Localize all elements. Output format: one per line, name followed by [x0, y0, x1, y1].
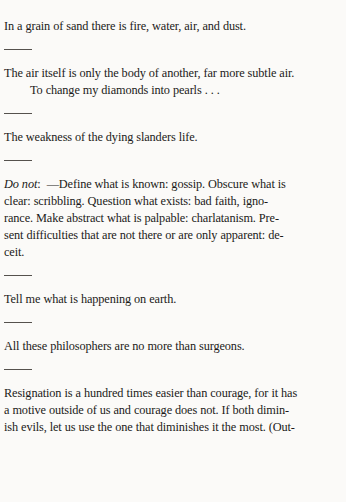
- aphorism-text: The weakness of the dying slanders life.: [4, 129, 336, 146]
- lead-rest-text: : —Define what is known: gossip. Obscure…: [37, 177, 286, 191]
- aphorism-entry: Resignation is a hundred times easier th…: [4, 385, 336, 436]
- spacer: [4, 35, 336, 49]
- aphorism-text: Resignation is a hundred times easier th…: [4, 385, 336, 436]
- text-line: clear: scribbling. Question what exists:…: [4, 193, 336, 210]
- text-line: Tell me what is happening on earth.: [4, 291, 336, 308]
- text-line-with-lead: Do not: —Define what is known: gossip. O…: [4, 176, 336, 193]
- text-line: ceit.: [4, 244, 336, 261]
- text-line: sent difficulties that are not there or …: [4, 227, 336, 244]
- aphorism-text: Tell me what is happening on earth.: [4, 291, 336, 308]
- aphorism-entry: All these philosophers are no more than …: [4, 338, 336, 355]
- book-page: In a grain of sand there is fire, water,…: [0, 0, 346, 502]
- aphorism-text: Do not: —Define what is known: gossip. O…: [4, 176, 336, 261]
- text-line: Resignation is a hundred times easier th…: [4, 385, 336, 402]
- text-line: The weakness of the dying slanders life.: [4, 129, 336, 146]
- text-line: The air itself is only the body of anoth…: [4, 65, 336, 82]
- spacer: [4, 355, 336, 369]
- spacer: [4, 308, 336, 322]
- spacer: [4, 370, 336, 385]
- spacer: [4, 161, 336, 176]
- text-line: In a grain of sand there is fire, water,…: [4, 18, 336, 35]
- aphorism-entry: The weakness of the dying slanders life.: [4, 129, 336, 146]
- aphorism-text: All these philosophers are no more than …: [4, 338, 336, 355]
- text-line: All these philosophers are no more than …: [4, 338, 336, 355]
- aphorism-entry: In a grain of sand there is fire, water,…: [4, 18, 336, 35]
- lead-italic-phrase: Do not: [4, 177, 37, 191]
- spacer: [4, 261, 336, 275]
- text-line: a motive outside of us and courage does …: [4, 402, 336, 419]
- spacer: [4, 50, 336, 65]
- text-line: ish evils, let us use the one that dimin…: [4, 419, 336, 436]
- aphorism-entry: The air itself is only the body of anoth…: [4, 65, 336, 99]
- aphorism-text: In a grain of sand there is fire, water,…: [4, 18, 336, 35]
- aphorism-entry: Do not: —Define what is known: gossip. O…: [4, 176, 336, 261]
- text-line: rance. Make abstract what is palpable: c…: [4, 210, 336, 227]
- spacer: [4, 114, 336, 129]
- spacer: [4, 323, 336, 338]
- text-line-indented: To change my diamonds into pearls . . .: [4, 82, 336, 99]
- page-text-column: In a grain of sand there is fire, water,…: [4, 18, 336, 436]
- aphorism-text: The air itself is only the body of anoth…: [4, 65, 336, 99]
- spacer: [4, 99, 336, 113]
- aphorism-entry: Tell me what is happening on earth.: [4, 291, 336, 308]
- spacer: [4, 146, 336, 160]
- spacer: [4, 276, 336, 291]
